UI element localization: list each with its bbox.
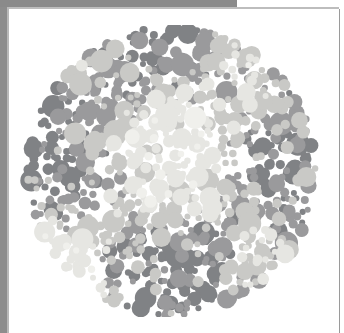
ishihara-plate (18, 25, 326, 317)
ishihara-plate-svg (18, 25, 326, 317)
page-frame-left-border (0, 0, 7, 333)
screenshot-page: Ishihara Color Vision Test Plate Circula… (0, 0, 344, 333)
page-frame-right-rule (339, 9, 340, 333)
plate-page-surface (9, 9, 339, 333)
page-frame-top-border (0, 0, 237, 7)
